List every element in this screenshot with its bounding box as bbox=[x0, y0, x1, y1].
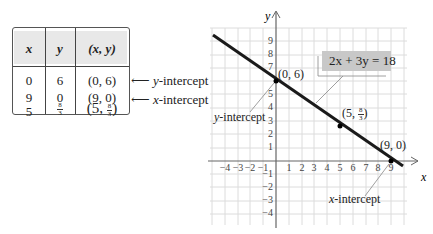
svg-text:5: 5 bbox=[338, 162, 343, 173]
svg-text:2: 2 bbox=[300, 162, 305, 173]
svg-text:3: 3 bbox=[268, 115, 273, 126]
point-5-8-3 bbox=[338, 124, 343, 129]
x-axis-label: x bbox=[420, 170, 427, 184]
svg-text:1: 1 bbox=[268, 141, 273, 152]
svg-text:−1: −1 bbox=[258, 162, 269, 173]
svg-text:9: 9 bbox=[268, 35, 273, 46]
svg-text:7: 7 bbox=[268, 61, 273, 72]
x-tick-labels: −4 −3 −2 −1 1 2 3 4 5 6 7 8 9 bbox=[220, 162, 394, 173]
svg-text:−4: −4 bbox=[220, 162, 231, 173]
svg-text:8: 8 bbox=[376, 162, 381, 173]
point-x-intercept bbox=[389, 159, 394, 164]
svg-text:3: 3 bbox=[312, 162, 317, 173]
point-label-9-0: (9, 0) bbox=[380, 138, 406, 153]
svg-text:8: 8 bbox=[268, 48, 273, 59]
svg-text:−2: −2 bbox=[245, 162, 256, 173]
point-label-5-8-3: (5, 83) bbox=[342, 106, 368, 122]
svg-text:−2: −2 bbox=[262, 181, 273, 192]
svg-text:6: 6 bbox=[351, 162, 356, 173]
svg-text:4: 4 bbox=[268, 101, 273, 112]
point-label-0-6: (0, 6) bbox=[278, 67, 304, 82]
svg-text:7: 7 bbox=[364, 162, 369, 173]
svg-text:2: 2 bbox=[268, 128, 273, 139]
graph-y-intercept-label: y-intercept bbox=[214, 110, 265, 125]
svg-text:9: 9 bbox=[389, 162, 394, 173]
y-axis-label: y bbox=[264, 9, 271, 23]
svg-text:−3: −3 bbox=[262, 194, 273, 205]
svg-text:4: 4 bbox=[325, 162, 330, 173]
svg-text:−4: −4 bbox=[262, 207, 273, 218]
equation-leader-line bbox=[316, 76, 343, 103]
svg-text:−3: −3 bbox=[233, 162, 244, 173]
svg-text:1: 1 bbox=[287, 162, 292, 173]
equation-label: 2x + 3y = 18 bbox=[329, 53, 396, 69]
y-tick-labels: 9 8 7 5 4 3 2 1 −1 −2 −3 −4 bbox=[262, 35, 273, 218]
graph-x-intercept-label: x-intercept bbox=[329, 192, 380, 207]
